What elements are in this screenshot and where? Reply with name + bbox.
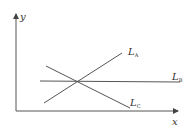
line-c-label-sub: C <box>137 103 141 109</box>
svg-text:LB: LB <box>171 71 183 83</box>
line-b <box>40 81 180 82</box>
diagram-canvas: y x LA LB LC <box>0 0 192 129</box>
svg-text:LA: LA <box>127 46 139 58</box>
y-axis-label: y <box>19 11 26 22</box>
line-c-label: LC <box>129 97 141 109</box>
line-c <box>46 66 130 108</box>
line-b-label-sub: B <box>179 77 183 83</box>
line-a <box>44 53 122 103</box>
x-axis-label: x <box>172 116 178 127</box>
line-a-label-sub: A <box>134 52 139 58</box>
line-diagram: y x LA LB LC <box>0 0 192 129</box>
line-b-label: LB <box>171 71 183 83</box>
svg-text:LC: LC <box>129 97 141 109</box>
line-a-label: LA <box>127 46 139 58</box>
